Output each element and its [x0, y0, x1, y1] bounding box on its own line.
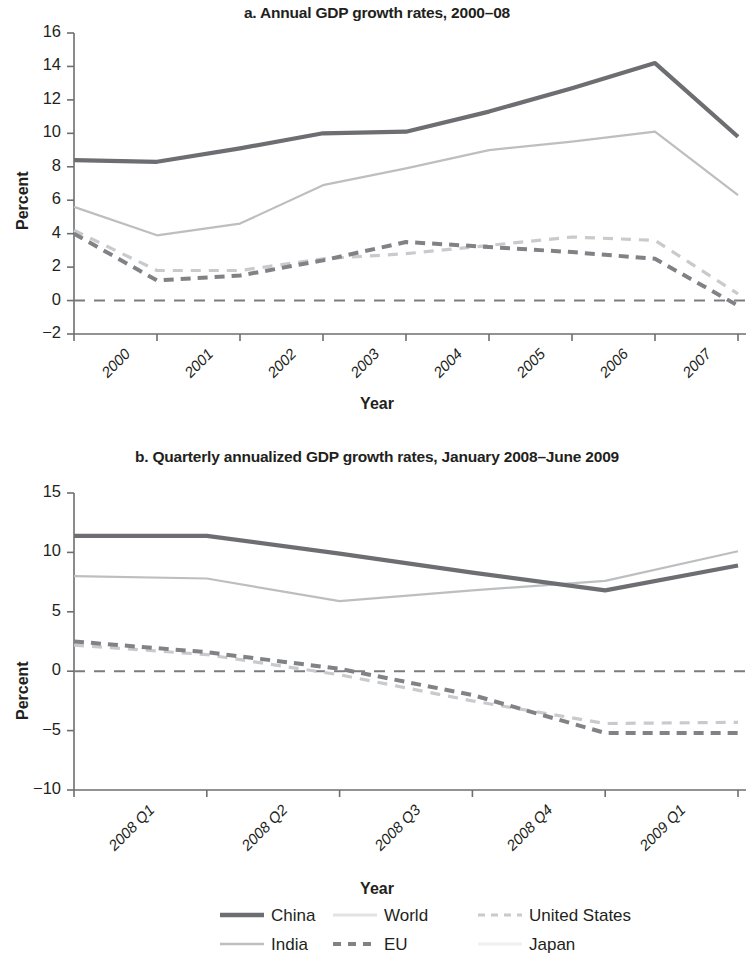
panel-b-plot [0, 440, 754, 900]
series-line-china [74, 63, 738, 162]
series-line-india [74, 132, 738, 236]
y-tick-label: 2 [21, 256, 61, 275]
y-tick-label: 15 [21, 482, 61, 501]
legend-item-world: World [333, 902, 428, 928]
series-line-united-states [74, 645, 738, 723]
chart-panel-b: b. Quarterly annualized GDP growth rates… [0, 440, 754, 900]
panel-b-x-axis-label: Year [0, 880, 754, 898]
y-tick-label: 10 [21, 122, 61, 141]
series-line-eu [74, 642, 738, 734]
y-tick-label: 6 [21, 189, 61, 208]
legend-swatch-india-icon [220, 937, 264, 951]
legend-label-japan: Japan [529, 936, 575, 953]
series-line-india [74, 551, 738, 601]
legend-swatch-japan-icon [478, 937, 522, 951]
y-tick-label: 5 [21, 601, 61, 620]
y-tick-label: 8 [21, 156, 61, 175]
series-line-china [74, 536, 738, 591]
legend-swatch-china-icon [220, 908, 264, 922]
legend-swatch-world-icon [333, 908, 377, 922]
legend-item-india: India [220, 931, 308, 957]
y-tick-label: 10 [21, 541, 61, 560]
y-tick-label: 0 [21, 290, 61, 309]
legend-item-eu: EU [333, 931, 408, 957]
legend-item-united-states: United States [478, 902, 631, 928]
legend-swatch-eu-icon [333, 937, 377, 951]
legend-label-india: India [271, 936, 308, 953]
chart-legend: China World United States India EU [0, 902, 754, 962]
series-line-united-states [74, 230, 738, 294]
y-tick-label: 16 [21, 22, 61, 41]
legend-item-china: China [220, 902, 315, 928]
legend-label-eu: EU [384, 936, 408, 953]
y-tick-label: 4 [21, 223, 61, 242]
y-tick-label: 0 [21, 660, 61, 679]
y-tick-label: 14 [21, 55, 61, 74]
legend-label-world: World [384, 907, 428, 924]
legend-row-top: China World United States [0, 902, 754, 930]
legend-item-japan: Japan [478, 931, 575, 957]
y-tick-label: −2 [21, 323, 61, 342]
y-tick-label: −10 [21, 779, 61, 798]
legend-swatch-united-states-icon [478, 908, 522, 922]
legend-row-bottom: India EU Japan [0, 931, 754, 959]
y-tick-label: 12 [21, 89, 61, 108]
y-tick-label: −5 [21, 720, 61, 739]
gdp-growth-figure: a. Annual GDP growth rates, 2000–08 Perc… [0, 0, 754, 962]
panel-a-x-axis-label: Year [0, 395, 754, 413]
legend-label-china: China [271, 907, 315, 924]
legend-label-united-states: United States [529, 907, 631, 924]
